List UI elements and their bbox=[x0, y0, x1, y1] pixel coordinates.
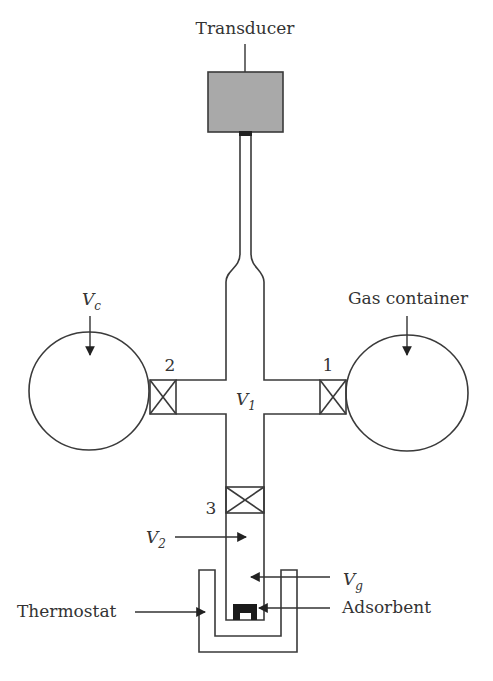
calibration-volume-circle bbox=[29, 332, 149, 450]
valve-3[interactable] bbox=[226, 487, 264, 513]
central-tube-right-wall bbox=[251, 136, 320, 380]
valve-1-label: 1 bbox=[323, 355, 334, 375]
transducer-seal bbox=[239, 131, 252, 136]
valve-2[interactable] bbox=[150, 380, 176, 414]
central-tube-left-wall bbox=[176, 136, 240, 380]
valve-3-label: 3 bbox=[206, 498, 217, 518]
v1-label: V1 bbox=[236, 389, 256, 413]
central-tube-lower-left-wall bbox=[176, 414, 320, 620]
adsorbent-label: Adsorbent bbox=[341, 597, 431, 617]
vg-label: Vg bbox=[343, 569, 363, 593]
v2-label: V2 bbox=[146, 527, 166, 551]
gas-container-label: Gas container bbox=[348, 288, 469, 308]
valve-1[interactable] bbox=[320, 380, 346, 414]
adsorbent-sample bbox=[233, 604, 257, 620]
thermostat-label: Thermostat bbox=[17, 601, 117, 621]
valve-2-label: 2 bbox=[165, 355, 176, 375]
vc-label: Vc bbox=[82, 289, 101, 313]
adsorption-apparatus-diagram: Transducer Vc 2 Gas container 1 V1 3 V2 … bbox=[0, 0, 493, 681]
transducer-label: Transducer bbox=[196, 18, 296, 38]
transducer-box bbox=[208, 72, 283, 132]
